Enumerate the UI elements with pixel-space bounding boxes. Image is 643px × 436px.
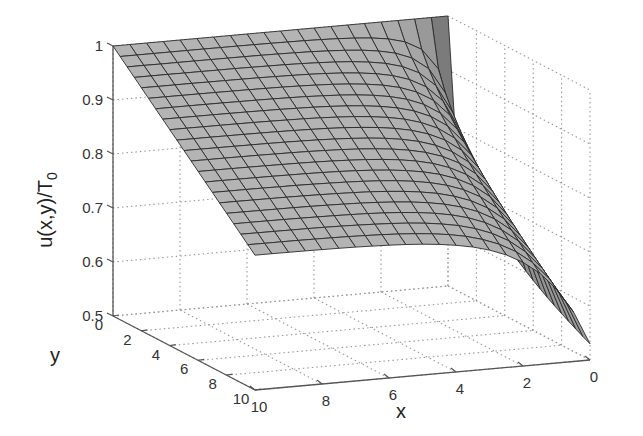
z-tick bbox=[107, 151, 113, 154]
x-tick bbox=[585, 356, 590, 360]
x-tick-label: 2 bbox=[523, 374, 531, 391]
x-tick bbox=[451, 368, 456, 372]
z-tick-label: 0.9 bbox=[82, 91, 103, 108]
grid-line bbox=[448, 16, 590, 90]
z-axis-label-subscript: 0 bbox=[44, 172, 60, 180]
y-tick-label: 8 bbox=[208, 375, 216, 392]
z-tick bbox=[107, 259, 113, 262]
x-axis-line bbox=[255, 360, 590, 390]
y-tick-label: 4 bbox=[152, 346, 160, 363]
grid-line bbox=[247, 304, 389, 378]
x-tick-label: 0 bbox=[590, 368, 598, 385]
z-tick bbox=[107, 205, 113, 208]
surface-plot: 0.50.60.70.80.9102468100246810 x y u(x,y… bbox=[0, 0, 643, 436]
grid-line bbox=[314, 298, 456, 372]
y-axis-label: y bbox=[50, 344, 60, 366]
svg-text:u(x,y)/T0: u(x,y)/T0 bbox=[34, 172, 60, 248]
x-tick bbox=[518, 362, 523, 366]
z-tick-label: 1 bbox=[95, 37, 103, 54]
x-tick bbox=[384, 374, 389, 378]
y-axis-line bbox=[113, 316, 255, 390]
grid-line bbox=[180, 310, 322, 384]
z-tick-label: 0.7 bbox=[82, 199, 103, 216]
grid-line bbox=[448, 70, 590, 144]
z-axis-label: u(x,y)/T0 bbox=[34, 172, 60, 248]
x-axis-label: x bbox=[396, 400, 406, 422]
grid-line bbox=[141, 301, 476, 331]
x-tick-label: 4 bbox=[456, 380, 464, 397]
z-tick-label: 0.6 bbox=[82, 253, 103, 270]
chart-root: 0.50.60.70.80.9102468100246810 x y u(x,y… bbox=[0, 0, 643, 436]
y-tick-label: 2 bbox=[123, 331, 131, 348]
y-tick-label: 6 bbox=[180, 360, 188, 377]
x-tick-label: 10 bbox=[251, 398, 268, 415]
z-tick-label: 0.8 bbox=[82, 145, 103, 162]
z-tick bbox=[107, 43, 113, 46]
y-tick-label: 10 bbox=[233, 390, 250, 407]
z-axis-label-main: u(x,y)/T bbox=[34, 180, 56, 248]
z-tick bbox=[107, 97, 113, 100]
x-tick bbox=[317, 380, 322, 384]
y-tick-label: 0 bbox=[95, 316, 103, 333]
x-tick-label: 8 bbox=[322, 392, 330, 409]
z-tick bbox=[107, 313, 113, 316]
